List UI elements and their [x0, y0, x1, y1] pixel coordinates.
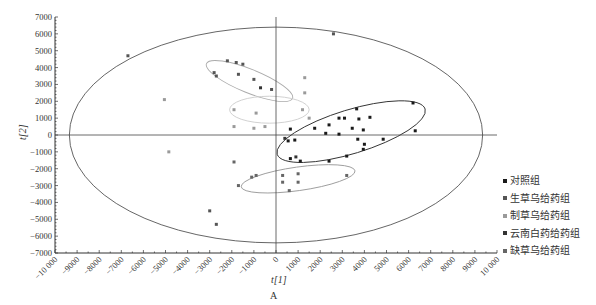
x-tick-label: −9000: [59, 254, 81, 276]
x-tick-label: 8000: [438, 254, 457, 273]
data-point: [297, 181, 300, 184]
data-point: [283, 137, 286, 140]
x-tick-label: −10 000: [32, 254, 59, 281]
legend-label: 生草乌给药组: [510, 190, 570, 208]
data-point: [237, 184, 240, 187]
data-point: [301, 108, 304, 111]
legend-item-yunnan-baiyao: 云南白药给药组: [503, 225, 580, 243]
legend-item-no-aconite: 缺草乌给药组: [503, 242, 580, 260]
data-point: [324, 132, 327, 135]
data-point: [289, 128, 292, 131]
data-point: [167, 150, 170, 153]
y-tick-label: −3000: [30, 181, 52, 191]
data-point: [293, 139, 296, 142]
y-tick-label: 1000: [35, 113, 52, 123]
x-tick-label: 4000: [350, 254, 369, 273]
legend-marker-icon: [503, 231, 507, 235]
data-point: [233, 108, 236, 111]
data-point: [362, 128, 365, 131]
x-tick-label: −2000: [214, 254, 236, 276]
legend-label: 缺草乌给药组: [510, 242, 570, 260]
data-point: [362, 148, 365, 151]
y-tick-label: 2000: [35, 96, 52, 106]
x-tick-label: 5000: [372, 254, 391, 273]
group-ellipse: [271, 88, 432, 175]
data-point: [308, 117, 311, 120]
data-point: [281, 181, 284, 184]
group-ellipse: [202, 53, 297, 110]
data-point: [163, 98, 166, 101]
data-point: [208, 209, 211, 212]
x-tick-label: −7000: [103, 254, 125, 276]
data-point: [287, 139, 290, 142]
y-tick-label: 6000: [35, 29, 52, 39]
data-point: [233, 125, 236, 128]
data-point: [215, 75, 218, 78]
data-point: [345, 174, 348, 177]
legend-marker-icon: [503, 249, 507, 253]
legend-marker-icon: [503, 214, 507, 218]
data-point: [412, 101, 415, 104]
data-point: [281, 174, 284, 177]
data-point: [297, 172, 300, 175]
legend-label: 制草乌给药组: [510, 207, 570, 225]
data-point: [255, 112, 258, 115]
x-tick-label: −4000: [170, 254, 192, 276]
data-point: [332, 32, 335, 35]
y-axis-title: t[2]: [17, 124, 28, 140]
plot-axes: 70006000500040003000200010000−1000−2000−…: [30, 12, 501, 281]
data-point: [303, 76, 306, 79]
data-point: [382, 138, 385, 141]
legend-item-control: 对照组: [503, 172, 580, 190]
data-point: [226, 59, 229, 62]
x-axis-title: t[1]: [271, 274, 287, 285]
x-tick-label: 0: [270, 254, 280, 264]
data-point: [250, 176, 253, 179]
data-point: [241, 63, 244, 66]
data-point: [355, 107, 358, 110]
x-tick-label: 10 000: [478, 254, 502, 278]
data-point: [294, 155, 297, 158]
data-point: [363, 143, 366, 146]
data-point: [235, 61, 238, 64]
data-point: [252, 78, 255, 81]
data-point: [414, 129, 417, 132]
data-point: [126, 54, 129, 57]
x-tick-label: 1000: [283, 254, 302, 273]
legend: 对照组 生草乌给药组 制草乌给药组 云南白药给药组 缺草乌给药组: [503, 172, 580, 260]
y-tick-label: 4000: [35, 63, 52, 73]
y-tick-label: −5000: [30, 214, 52, 224]
data-point: [337, 133, 340, 136]
data-point: [356, 138, 359, 141]
data-point: [357, 117, 360, 120]
data-point: [215, 223, 218, 226]
data-point: [343, 117, 346, 120]
y-tick-label: 0: [48, 130, 52, 140]
data-point: [299, 160, 302, 163]
data-point: [259, 86, 262, 89]
y-tick-label: 3000: [35, 79, 52, 89]
y-tick-label: −4000: [30, 197, 52, 207]
x-tick-label: −1000: [236, 254, 258, 276]
x-tick-label: −3000: [192, 254, 214, 276]
data-point: [233, 160, 236, 163]
data-point: [288, 189, 291, 192]
x-tick-label: 9000: [460, 254, 479, 273]
data-point: [213, 71, 216, 74]
data-point: [270, 88, 273, 91]
x-tick-label: 2000: [306, 254, 325, 273]
data-point: [345, 155, 348, 158]
x-tick-label: 6000: [394, 254, 413, 273]
data-point: [255, 174, 258, 177]
x-tick-label: −5000: [147, 254, 169, 276]
group-ellipse: [230, 96, 310, 123]
data-point: [237, 73, 240, 76]
data-point: [328, 123, 331, 126]
y-tick-label: 5000: [35, 46, 52, 56]
data-points: [126, 32, 416, 225]
y-tick-label: −2000: [30, 164, 52, 174]
legend-item-raw-aconite: 生草乌给药组: [503, 190, 580, 208]
y-tick-label: −1000: [30, 147, 52, 157]
data-point: [368, 116, 371, 119]
legend-marker-icon: [503, 196, 507, 200]
